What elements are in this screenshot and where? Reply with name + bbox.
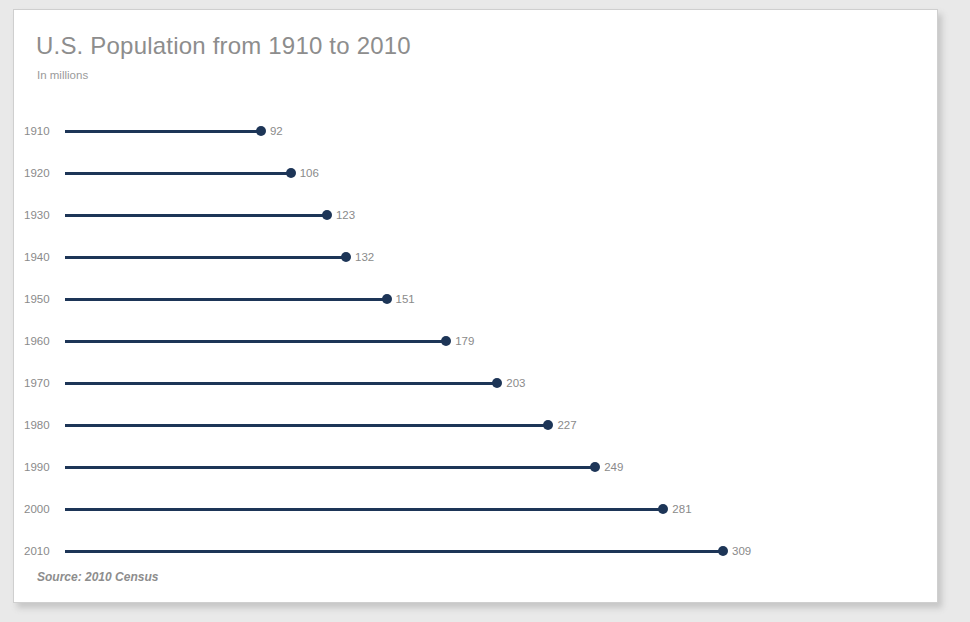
chart-category-label: 2000 — [24, 502, 66, 516]
chart-bar-line — [65, 382, 497, 385]
chart-data-point — [718, 546, 728, 556]
chart-bar-line — [65, 214, 327, 217]
chart-category-label: 1910 — [24, 124, 66, 138]
chart-card-inner: U.S. Population from 1910 to 2010 In mil… — [14, 10, 937, 602]
chart-value-label: 281 — [672, 502, 691, 516]
chart-row: 1930123 — [14, 205, 939, 225]
chart-value-label: 92 — [270, 124, 283, 138]
chart-value-label: 151 — [396, 292, 415, 306]
chart-data-point — [543, 420, 553, 430]
chart-bar-line — [65, 340, 446, 343]
chart-row: 191092 — [14, 121, 939, 141]
chart-value-label: 227 — [557, 418, 576, 432]
screenshot-root: U.S. Population from 1910 to 2010 In mil… — [0, 0, 970, 622]
chart-bar-line — [65, 424, 548, 427]
chart-category-label: 1960 — [24, 334, 66, 348]
chart-data-point — [441, 336, 451, 346]
chart-row: 1950151 — [14, 289, 939, 309]
chart-category-label: 1970 — [24, 376, 66, 390]
chart-bar-line — [65, 172, 291, 175]
chart-value-label: 203 — [506, 376, 525, 390]
chart-value-label: 132 — [355, 250, 374, 264]
chart-bar-line — [65, 298, 387, 301]
chart-value-label: 123 — [336, 208, 355, 222]
chart-category-label: 1940 — [24, 250, 66, 264]
chart-category-label: 1950 — [24, 292, 66, 306]
chart-data-point — [382, 294, 392, 304]
chart-data-point — [256, 126, 266, 136]
chart-row: 1970203 — [14, 373, 939, 393]
chart-plot-area: 1910921920106193012319401321950151196017… — [14, 10, 939, 604]
chart-data-point — [658, 504, 668, 514]
chart-row: 2000281 — [14, 499, 939, 519]
chart-bar-line — [65, 130, 261, 133]
chart-row: 1960179 — [14, 331, 939, 351]
chart-bar-line — [65, 256, 346, 259]
chart-row: 1920106 — [14, 163, 939, 183]
chart-value-label: 309 — [732, 544, 751, 558]
chart-value-label: 249 — [604, 460, 623, 474]
chart-row: 1980227 — [14, 415, 939, 435]
chart-category-label: 1920 — [24, 166, 66, 180]
chart-bar-line — [65, 508, 663, 511]
chart-card: U.S. Population from 1910 to 2010 In mil… — [13, 9, 938, 603]
chart-category-label: 1990 — [24, 460, 66, 474]
chart-data-point — [286, 168, 296, 178]
chart-bar-line — [65, 466, 595, 469]
chart-row: 1940132 — [14, 247, 939, 267]
chart-bar-line — [65, 550, 723, 553]
chart-value-label: 179 — [455, 334, 474, 348]
chart-category-label: 2010 — [24, 544, 66, 558]
chart-source-note: Source: 2010 Census — [37, 570, 158, 584]
chart-category-label: 1980 — [24, 418, 66, 432]
chart-data-point — [492, 378, 502, 388]
chart-data-point — [590, 462, 600, 472]
chart-value-label: 106 — [300, 166, 319, 180]
chart-row: 1990249 — [14, 457, 939, 477]
chart-category-label: 1930 — [24, 208, 66, 222]
chart-data-point — [341, 252, 351, 262]
chart-data-point — [322, 210, 332, 220]
chart-row: 2010309 — [14, 541, 939, 561]
